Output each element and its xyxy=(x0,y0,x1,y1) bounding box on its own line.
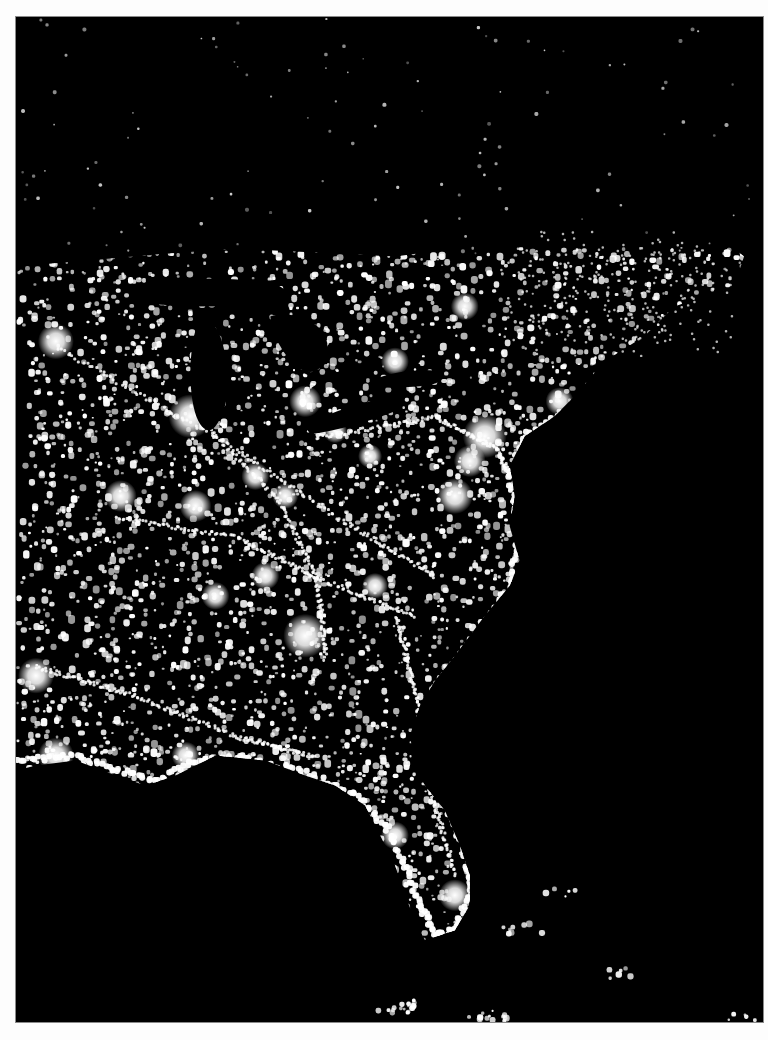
island-light xyxy=(567,890,570,893)
town-light xyxy=(616,271,622,276)
town-light xyxy=(378,356,380,358)
town-light xyxy=(430,943,436,950)
town-light xyxy=(310,907,314,910)
scattered-light xyxy=(417,80,419,82)
town-light xyxy=(644,452,650,457)
town-light xyxy=(671,738,673,740)
town-light xyxy=(112,536,114,538)
town-light xyxy=(136,277,142,282)
coast-light xyxy=(312,775,318,781)
town-light xyxy=(717,521,723,526)
town-light xyxy=(35,370,40,375)
island-light xyxy=(502,925,506,929)
town-light xyxy=(135,385,138,388)
town-light xyxy=(649,563,652,566)
town-light xyxy=(346,352,349,355)
town-light xyxy=(349,931,355,936)
town-light xyxy=(346,778,349,780)
town-light xyxy=(157,354,159,356)
town-light xyxy=(514,655,517,658)
town-light xyxy=(71,270,74,274)
town-light xyxy=(97,269,104,276)
town-light xyxy=(172,685,176,690)
town-light xyxy=(575,541,580,548)
town-light xyxy=(216,833,220,837)
town-light xyxy=(154,572,157,576)
scattered-light xyxy=(99,183,103,187)
coast-light xyxy=(360,804,366,810)
town-light xyxy=(437,259,439,260)
scattered-light xyxy=(655,312,657,314)
town-light xyxy=(401,812,407,817)
town-light xyxy=(699,853,703,857)
town-light xyxy=(521,680,526,685)
town-light xyxy=(749,593,755,598)
town-light xyxy=(91,277,95,281)
town-light xyxy=(136,898,141,904)
town-light xyxy=(38,625,45,630)
town-light xyxy=(425,791,427,793)
coast-light xyxy=(421,710,427,716)
town-light xyxy=(652,545,655,548)
town-light xyxy=(553,543,555,545)
town-light xyxy=(465,756,472,765)
town-light xyxy=(700,632,704,636)
coast-light xyxy=(523,434,529,440)
town-light xyxy=(100,253,106,258)
town-light xyxy=(373,524,378,527)
town-light xyxy=(258,506,264,513)
town-light xyxy=(336,369,339,371)
town-light xyxy=(672,754,675,757)
town-light xyxy=(271,834,277,841)
town-light xyxy=(135,683,138,686)
highway-light xyxy=(73,358,76,361)
town-light xyxy=(696,413,699,416)
town-light xyxy=(336,528,342,534)
town-light xyxy=(216,904,220,907)
town-light xyxy=(629,321,635,327)
highway-light xyxy=(453,874,456,877)
town-light xyxy=(134,798,139,803)
town-light xyxy=(147,251,152,257)
town-light xyxy=(461,415,467,421)
town-light xyxy=(79,532,82,536)
town-light xyxy=(632,618,635,622)
town-light xyxy=(554,315,558,319)
town-light xyxy=(24,839,30,845)
town-light xyxy=(176,881,180,887)
town-light xyxy=(36,832,39,834)
town-light xyxy=(69,592,75,598)
town-light xyxy=(273,348,279,354)
town-light xyxy=(553,591,558,594)
town-light xyxy=(461,717,464,720)
town-light xyxy=(694,422,699,427)
town-light xyxy=(483,359,487,364)
town-light xyxy=(103,862,106,865)
highway-light xyxy=(128,517,131,520)
highway-light xyxy=(166,706,169,709)
scattered-light xyxy=(579,325,581,327)
town-light xyxy=(584,564,590,568)
town-light xyxy=(88,302,91,305)
scattered-light xyxy=(500,91,502,93)
town-light xyxy=(113,837,120,843)
town-light xyxy=(544,854,548,859)
highway-light xyxy=(162,523,165,526)
scattered-light xyxy=(645,231,648,234)
town-light xyxy=(538,760,544,766)
town-light xyxy=(704,493,710,498)
highway-light xyxy=(512,479,515,482)
town-light xyxy=(50,934,56,939)
town-light xyxy=(340,249,345,252)
town-light xyxy=(72,489,75,492)
town-light xyxy=(97,490,100,493)
town-light xyxy=(180,597,183,600)
town-light xyxy=(204,929,210,936)
town-light xyxy=(138,409,144,414)
town-light xyxy=(677,650,683,655)
town-light xyxy=(170,549,177,555)
town-light xyxy=(587,540,591,546)
town-light xyxy=(354,777,358,780)
town-light xyxy=(714,794,720,801)
town-light xyxy=(537,407,543,412)
